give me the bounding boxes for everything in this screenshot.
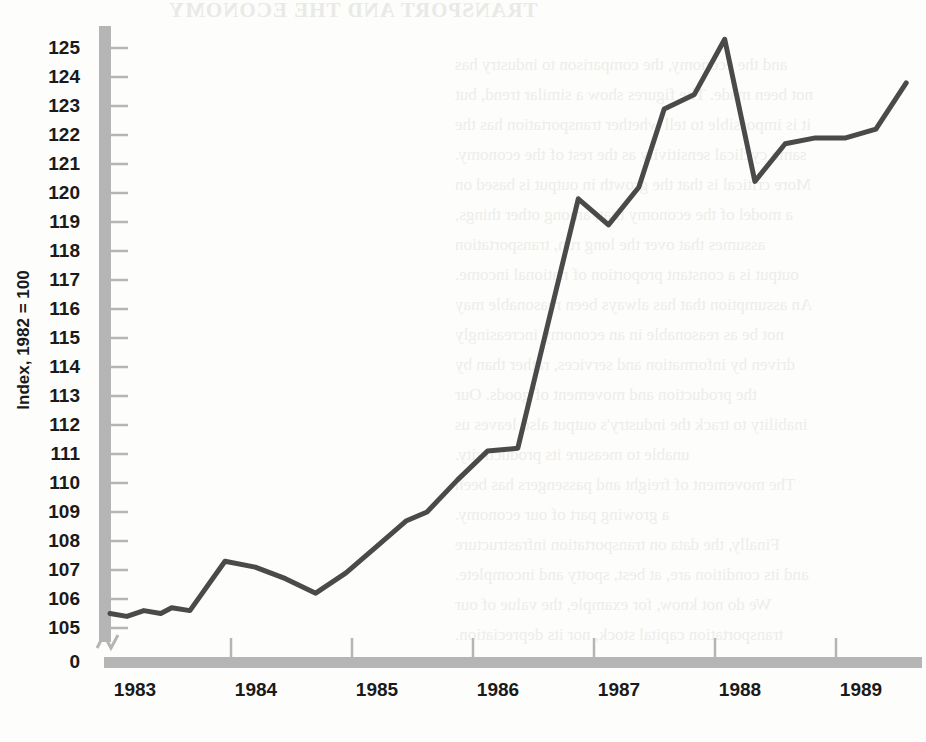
x-tick-label: 1983: [114, 680, 156, 699]
transportation-output-chart: 1051061071081091101111121131141151161171…: [0, 0, 926, 742]
chart-page: TRANSPORT AND THE ECONOMY and the econom…: [0, 0, 926, 742]
x-tick-label: 1984: [235, 680, 277, 699]
x-tick-label: 1986: [477, 680, 519, 699]
x-tick-label: 1985: [356, 680, 398, 699]
x-tick-label: 1989: [840, 680, 882, 699]
x-tick-label: 1988: [719, 680, 761, 699]
y-axis-title: Index, 1982 = 100: [14, 220, 34, 460]
x-tick-label: 1987: [598, 680, 640, 699]
x-tick-labels: 1983198419851986198719881989: [0, 0, 926, 742]
